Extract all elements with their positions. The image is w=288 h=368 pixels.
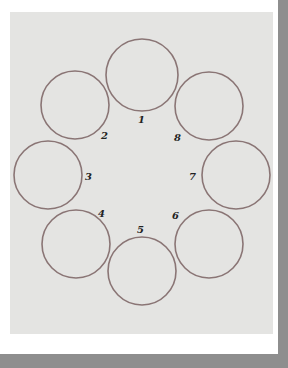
circle-label-2: 2: [100, 130, 108, 141]
circle-label-4: 4: [98, 208, 105, 219]
circle-3: [14, 141, 82, 209]
circle-1: [106, 39, 178, 111]
circle-label-3: 3: [85, 171, 92, 182]
circle-label-5: 5: [137, 224, 144, 235]
circle-label-8: 8: [174, 132, 181, 143]
circle-4: [42, 210, 110, 278]
circle-2: [41, 71, 109, 139]
circle-label-7: 7: [189, 171, 196, 182]
circle-8: [175, 72, 243, 140]
circle-label-6: 6: [172, 210, 179, 221]
circle-5: [108, 237, 176, 305]
circle-diagram: 12345678: [0, 0, 288, 368]
circle-7: [202, 141, 270, 209]
circle-label-1: 1: [138, 114, 145, 125]
circle-6: [175, 210, 243, 278]
